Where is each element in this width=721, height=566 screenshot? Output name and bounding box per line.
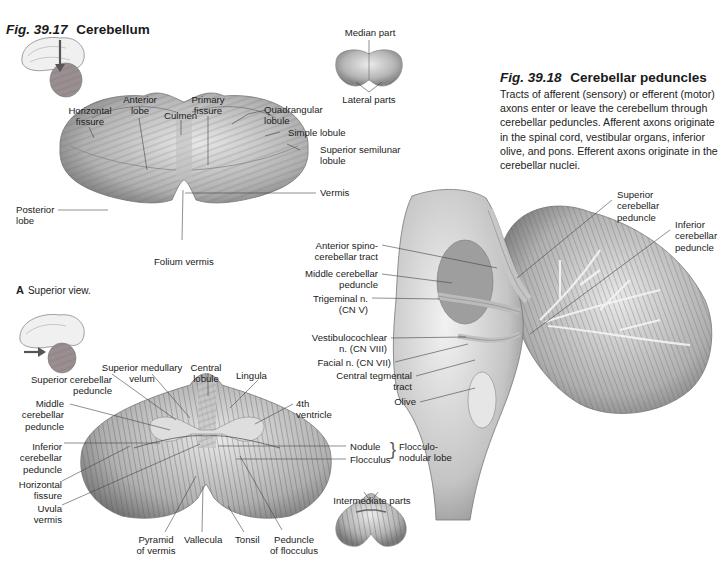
label-intermediate-parts: Intermediate parts xyxy=(330,495,414,506)
label-fourth-ventricle: 4th ventricle xyxy=(296,398,332,421)
view-a-caption: ASuperior view. xyxy=(16,284,91,296)
label-olive: Olive xyxy=(380,396,416,407)
label-lingula: Lingula xyxy=(236,370,267,381)
label-trigeminal-nerve: Trigeminal n. (CN V) xyxy=(300,293,368,316)
label-superior-semilunar-lobule: Superior semilunar lobule xyxy=(320,144,401,167)
label-flocculus: Flocculus xyxy=(350,454,391,465)
figure-title-39-17: Fig. 39.17 Cerebellum xyxy=(6,22,150,37)
label-posterior-lobe: Posterior lobe xyxy=(16,204,54,227)
brainstem-cerebellum-lateral-view xyxy=(393,189,711,520)
label-superior-cerebellar-peduncle: Superior cerebellar peduncle xyxy=(8,374,112,397)
label-anterior-lobe: Anterior lobe xyxy=(118,94,162,117)
label-pyramid-of-vermis: Pyramid of vermis xyxy=(136,534,176,557)
label-horizontal-fissure-b: Horizontal fissure xyxy=(8,479,62,502)
label-anterior-spinocerebellar-tract: Anterior spino- cerebellar tract xyxy=(300,240,378,263)
view-caption-text: Superior view. xyxy=(28,285,91,296)
label-vallecula: Vallecula xyxy=(184,534,222,545)
brace-icon: } xyxy=(390,440,396,458)
cerebellum-parts-inset-top xyxy=(336,40,403,92)
label-central-lobule: Central lobule xyxy=(186,362,226,385)
label-folium-vermis: Folium vermis xyxy=(154,256,214,267)
label-inferior-cerebellar-peduncle-lateral: Inferior cerebellar peduncle xyxy=(675,219,717,253)
brain-sagittal-arrow-right-icon xyxy=(20,314,84,373)
figure-number: Fig. 39.17 xyxy=(6,22,68,37)
label-peduncle-of-flocculus: Peduncle of flocculus xyxy=(269,534,319,557)
label-flocculonodular-lobe: Flocculo- nodular lobe xyxy=(399,441,452,464)
label-tonsil: Tonsil xyxy=(235,534,260,545)
label-vermis: Vermis xyxy=(320,187,349,198)
label-facial-nerve: Facial n. (CN VII) xyxy=(300,357,391,368)
label-superior-medullary-velum: Superior medullary velum xyxy=(100,362,184,385)
label-quadrangular-lobule: Quadrangular lobule xyxy=(264,104,323,127)
label-median-part: Median part xyxy=(340,27,400,38)
label-culmen: Culmen xyxy=(164,110,197,121)
label-simple-lobule: Simple lobule xyxy=(288,127,346,138)
label-nodule: Nodule xyxy=(350,441,380,452)
figure-title-39-18: Fig. 39.18 Cerebellar peduncles xyxy=(500,70,707,85)
figure-caption-39-18: Tracts of afferent (sensory) or efferent… xyxy=(500,87,720,172)
label-middle-cerebellar-peduncle-lateral: Middle cerebellar peduncle xyxy=(290,268,378,291)
label-lateral-parts: Lateral parts xyxy=(336,94,402,105)
label-horizontal-fissure: Horizontal fissure xyxy=(55,105,125,128)
figure-title: Cerebellum xyxy=(76,22,150,37)
brain-sagittal-arrow-down-icon xyxy=(22,37,84,97)
label-inferior-cerebellar-peduncle: Inferior cerebellar peduncle xyxy=(8,441,62,475)
label-middle-cerebellar-peduncle: Middle cerebellar peduncle xyxy=(8,398,64,432)
label-superior-cerebellar-peduncle-lateral: Superior cerebellar peduncle xyxy=(617,189,659,223)
label-uvula-vermis: Uvula vermis xyxy=(8,503,62,526)
figure-number: Fig. 39.18 xyxy=(500,70,562,85)
label-vestibulocochlear-nerve: Vestibulocochlear n. (CN VIII) xyxy=(290,332,387,355)
figure-title: Cerebellar peduncles xyxy=(570,70,707,85)
view-letter: A xyxy=(16,284,24,296)
label-central-tegmental-tract: Central tegmental tract xyxy=(320,370,412,393)
